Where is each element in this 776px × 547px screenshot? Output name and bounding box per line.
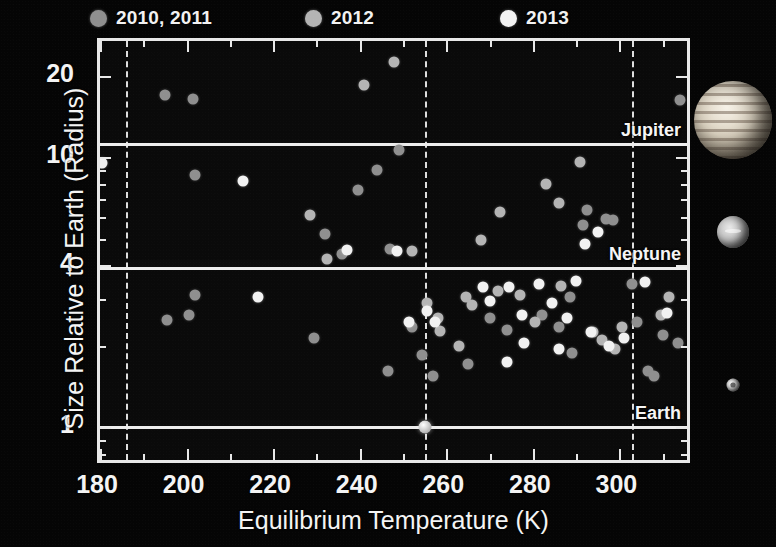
y-tick-1 <box>676 427 687 429</box>
data-point <box>484 295 495 306</box>
data-point <box>404 317 415 328</box>
x-tick-200 <box>187 449 189 460</box>
data-point <box>657 330 668 341</box>
data-point <box>372 164 383 175</box>
data-point <box>183 310 194 321</box>
data-point <box>462 358 473 369</box>
legend-label: 2010, 2011 <box>116 7 212 29</box>
y-tick-3 <box>681 299 687 301</box>
legend-marker-icon <box>500 10 517 27</box>
y-tick-6 <box>100 217 106 219</box>
x-tick-label-280: 280 <box>509 470 551 499</box>
legend-marker-icon <box>90 10 107 27</box>
x-minor-tick-230 <box>316 454 318 460</box>
x-tick-280 <box>533 449 535 460</box>
plot-inner: JupiterNeptuneEarth <box>100 41 687 460</box>
data-point <box>467 299 478 310</box>
x-minor-tick-210 <box>230 41 232 47</box>
data-point <box>352 184 363 195</box>
data-point <box>391 246 402 257</box>
data-point <box>252 291 263 302</box>
reference-line-neptune <box>100 267 687 270</box>
legend-marker-icon <box>305 10 322 27</box>
data-point <box>322 254 333 265</box>
data-point <box>475 234 486 245</box>
data-point <box>627 278 638 289</box>
data-point <box>555 280 566 291</box>
y-tick-0.9 <box>100 440 106 442</box>
data-point <box>304 210 315 221</box>
figure-canvas: 2010, 201120122013 201041 JupiterNeptune… <box>0 0 776 547</box>
data-point <box>581 204 592 215</box>
y-axis-title: Size Relative to Earth (Radius) <box>60 44 89 474</box>
data-point <box>577 220 588 231</box>
y-tick-0.8 <box>681 454 687 456</box>
data-point <box>320 229 331 240</box>
legend-label: 2012 <box>331 7 374 29</box>
data-point <box>517 310 528 321</box>
data-point <box>190 170 201 181</box>
x-tick-label-220: 220 <box>249 470 291 499</box>
x-tick-240 <box>360 41 362 52</box>
reference-label-earth: Earth <box>635 403 681 424</box>
y-tick-20 <box>100 76 111 78</box>
x-tick-200 <box>187 41 189 52</box>
data-point <box>159 90 170 101</box>
data-point <box>534 278 545 289</box>
data-point <box>592 226 603 237</box>
x-minor-tick-250 <box>403 454 405 460</box>
data-point <box>428 371 439 382</box>
x-tick-260 <box>446 449 448 460</box>
data-point <box>237 175 248 186</box>
data-point <box>382 365 393 376</box>
data-point <box>562 312 573 323</box>
data-point <box>649 371 660 382</box>
data-point <box>640 277 651 288</box>
data-point <box>675 95 686 106</box>
earth-thumbnail <box>727 379 740 392</box>
legend-item-2013: 2013 <box>500 6 569 30</box>
y-tick-4 <box>100 265 111 267</box>
y-tick-5 <box>100 239 106 241</box>
y-tick-0.9 <box>681 440 687 442</box>
y-tick-2 <box>681 346 687 348</box>
data-point <box>553 322 564 333</box>
x-minor-tick-290 <box>576 41 578 47</box>
x-minor-tick-190 <box>143 41 145 47</box>
data-point <box>566 348 577 359</box>
data-point <box>421 306 432 317</box>
data-point <box>530 317 541 328</box>
data-point <box>162 315 173 326</box>
x-minor-tick-310 <box>663 41 665 47</box>
data-point <box>564 291 575 302</box>
x-tick-240 <box>360 449 362 460</box>
y-tick-5 <box>681 239 687 241</box>
y-tick-10 <box>676 157 687 159</box>
y-tick-3 <box>100 299 106 301</box>
x-tick-label-180: 180 <box>76 470 118 499</box>
solar-system-planet-strip <box>690 0 776 547</box>
y-tick-8 <box>100 184 106 186</box>
y-tick-9 <box>100 170 106 172</box>
reference-label-jupiter: Jupiter <box>621 120 681 141</box>
data-point <box>484 312 495 323</box>
data-point <box>579 238 590 249</box>
data-point <box>664 291 675 302</box>
data-point <box>406 246 417 257</box>
y-tick-7 <box>681 199 687 201</box>
y-tick-20 <box>676 76 687 78</box>
y-tick-9 <box>681 170 687 172</box>
y-tick-2 <box>100 346 106 348</box>
data-point <box>553 344 564 355</box>
x-tick-220 <box>273 41 275 52</box>
data-point <box>190 289 201 300</box>
data-point <box>417 350 428 361</box>
x-minor-tick-270 <box>490 41 492 47</box>
data-point <box>519 338 530 349</box>
data-point <box>393 144 404 155</box>
data-point <box>430 317 441 328</box>
data-point <box>501 324 512 335</box>
data-point <box>571 275 582 286</box>
data-point <box>341 244 352 255</box>
x-tick-220 <box>273 449 275 460</box>
